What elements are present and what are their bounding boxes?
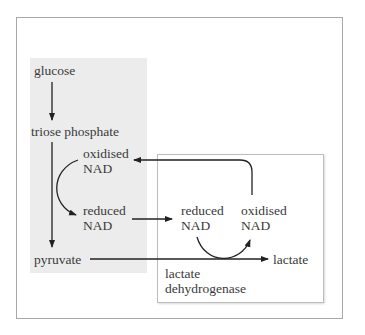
label-reduced-nad-left-2: NAD [83, 218, 112, 233]
arrow-reduced-to-oxidised-nad-ldh [197, 237, 250, 258]
label-enzyme-1: lactate [165, 266, 200, 281]
label-lactate: lactate [273, 252, 308, 267]
label-reduced-nad-left-1: reduced [83, 203, 126, 218]
label-oxidised-nad-left-1: oxidised [83, 146, 129, 161]
label-triose-phosphate: triose phosphate [31, 124, 119, 139]
label-pyruvate: pyruvate [34, 252, 81, 267]
arrow-oxidised-to-reduced-nad [57, 160, 78, 215]
label-oxidised-nad-right-1: oxidised [241, 203, 287, 218]
label-reduced-nad-right-1: reduced [181, 203, 224, 218]
label-reduced-nad-right-2: NAD [181, 218, 210, 233]
arrow-oxidised-nad-return [134, 160, 252, 195]
label-enzyme-2: dehydrogenase [165, 281, 246, 296]
label-oxidised-nad-left-2: NAD [83, 161, 112, 176]
label-glucose: glucose [34, 63, 75, 78]
label-oxidised-nad-right-2: NAD [241, 218, 270, 233]
